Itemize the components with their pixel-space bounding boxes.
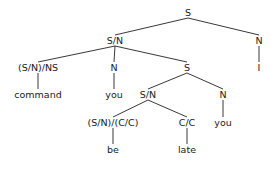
tree-edge <box>115 18 188 35</box>
tree-node: N <box>255 35 262 46</box>
tree-node: N <box>219 89 226 100</box>
tree-edge <box>188 18 259 35</box>
tree-node: you <box>105 89 122 100</box>
tree-edge <box>148 73 187 89</box>
tree-node: S <box>184 62 190 73</box>
tree-edge <box>148 100 187 117</box>
tree-node: N <box>110 62 117 73</box>
tree-node: S/N <box>140 89 156 100</box>
tree-edge <box>187 73 223 89</box>
tree-node: C/C <box>179 117 195 128</box>
tree-node: late <box>178 144 196 155</box>
tree-edge <box>38 46 115 62</box>
tree-node: S/N <box>107 35 123 46</box>
tree-node: command <box>14 89 61 100</box>
tree-node: (S/N)/(C/C) <box>88 117 139 128</box>
tree-edge <box>114 46 115 62</box>
tree-edge <box>113 100 148 117</box>
tree-edges <box>0 0 277 173</box>
tree-node: I <box>258 62 261 73</box>
tree-node: (S/N)/NS <box>18 62 58 73</box>
tree-node: you <box>214 117 231 128</box>
tree-node: be <box>107 144 119 155</box>
tree-edge <box>115 46 187 62</box>
tree-node: S <box>185 7 191 18</box>
